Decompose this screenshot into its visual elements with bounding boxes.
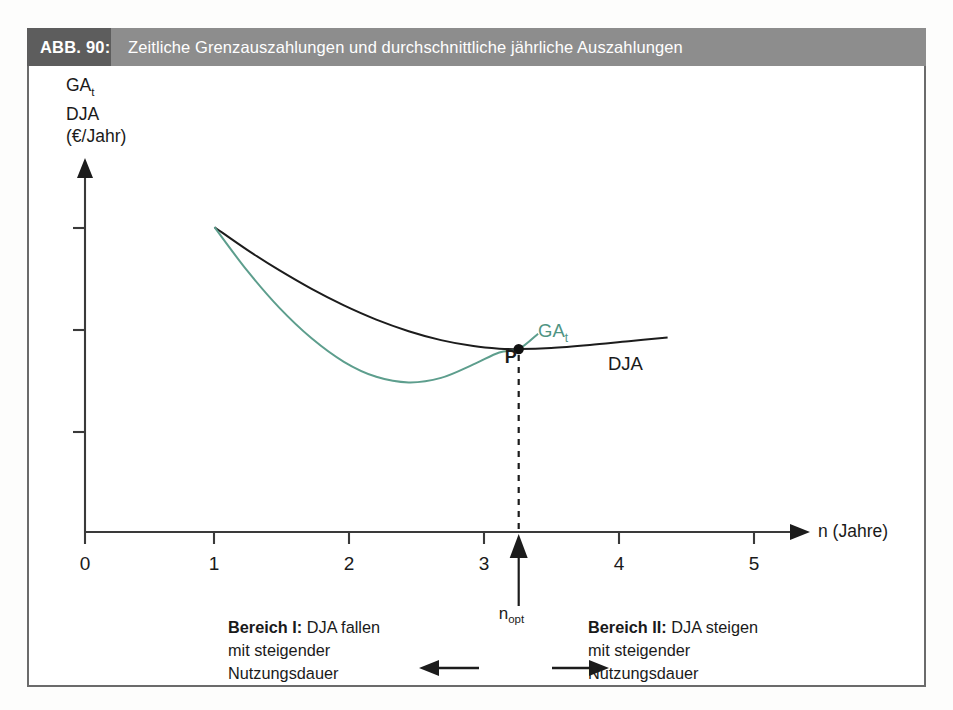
chart-plot-area [27,28,926,687]
x-axis [85,524,810,544]
x-tick-label-0: 0 [80,553,91,575]
point-label-p: P [505,347,517,368]
y-axis-label-gat-subscript: t [91,86,94,98]
region-two-line1: Bereich II: DJA steigen [588,616,758,639]
region-one-line1: Bereich I: DJA fallen [228,616,380,639]
nopt-label-text: n [499,604,508,623]
region-direction-arrows [419,660,609,676]
curve-gat [215,227,539,382]
x-axis-label: n (Jahre) [818,521,888,542]
region-two-title: Bereich II: [588,618,667,636]
region-one-line3: Nutzungsdauer [228,662,380,685]
x-tick-label-5: 5 [749,553,760,575]
region-two-line3: Nutzungsdauer [588,662,758,685]
y-axis [73,158,93,532]
y-axis-label: GAt DJA (€/Jahr) [66,74,126,147]
y-axis-label-gat: GA [66,75,91,95]
y-axis-label-line1: GAt [66,74,126,103]
region-one-annotation: Bereich I: DJA fallen mit steigender Nut… [228,616,380,685]
region-one-text1: DJA fallen [302,618,380,636]
curve-label-dja: DJA [608,353,643,375]
region-two-text1: DJA steigen [667,618,758,636]
region-one-line2: mit steigender [228,639,380,662]
x-tick-label-2: 2 [344,553,355,575]
curve-label-gat-text: GA [538,320,565,341]
x-tick-label-3: 3 [479,553,490,575]
curve-dja-main [215,227,668,349]
curve-label-gat-subscript: t [565,331,568,345]
nopt-arrow-icon [510,534,528,606]
region-two-annotation: Bereich II: DJA steigen mit steigender N… [588,616,758,685]
region-two-line2: mit steigender [588,639,758,662]
nopt-label: nopt [499,604,524,625]
x-axis-arrow-icon [790,524,810,540]
y-axis-arrow-icon [77,158,93,178]
curve-label-gat: GAt [538,320,568,345]
x-tick-label-1: 1 [209,553,220,575]
y-axis-label-line2: DJA [66,103,126,125]
region-one-title: Bereich I: [228,618,302,636]
y-axis-label-line3: (€/Jahr) [66,125,126,147]
nopt-label-subscript: opt [508,613,524,625]
x-tick-label-4: 4 [614,553,625,575]
